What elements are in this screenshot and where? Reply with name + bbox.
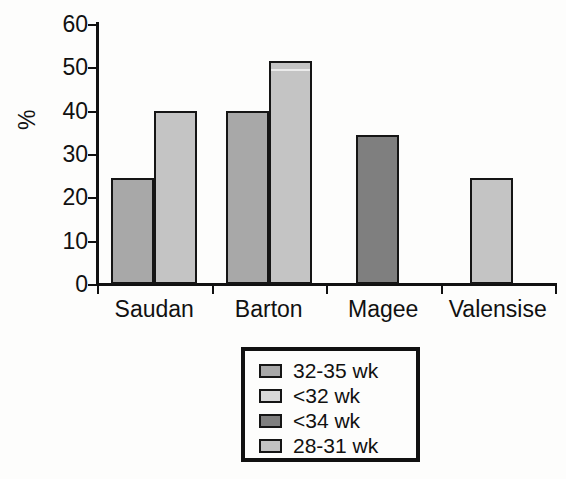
y-tick-mark xyxy=(88,154,97,156)
chart-legend: 32-35 wk<32 wk<34 wk28-31 wk xyxy=(241,347,420,462)
x-axis-label: Barton xyxy=(235,296,303,323)
y-axis-title: % xyxy=(14,110,41,130)
plot-area: 0102030405060 xyxy=(97,24,555,284)
x-axis-label: Magee xyxy=(348,296,418,323)
legend-label: 28-31 wk xyxy=(293,435,378,456)
y-tick-label: 50 xyxy=(62,56,88,79)
x-axis-label: Saudan xyxy=(115,296,194,323)
y-tick-label: 20 xyxy=(62,186,88,209)
legend-swatch xyxy=(259,364,282,378)
bar xyxy=(154,111,197,284)
legend-entry: <32 wk xyxy=(259,383,416,408)
y-tick-label: 0 xyxy=(75,273,88,296)
x-axis-label: Valensise xyxy=(449,296,547,323)
bar-chart-figure: % 0102030405060 SaudanBartonMageeValensi… xyxy=(0,0,566,479)
x-tick-mark xyxy=(212,283,214,294)
legend-entry-list: 32-35 wk<32 wk<34 wk28-31 wk xyxy=(259,358,416,458)
y-tick-label: 40 xyxy=(62,99,88,122)
y-tick-label: 60 xyxy=(62,13,88,36)
x-tick-mark xyxy=(441,283,443,294)
legend-swatch xyxy=(259,414,282,428)
bar xyxy=(269,61,312,284)
bar xyxy=(226,111,269,284)
legend-entry: <34 wk xyxy=(259,408,416,433)
x-tick-mark xyxy=(555,283,557,294)
scan-artifact xyxy=(271,69,310,71)
y-tick-label: 30 xyxy=(62,143,88,166)
y-tick-mark xyxy=(88,197,97,199)
legend-swatch xyxy=(259,389,282,403)
bar xyxy=(470,178,513,284)
legend-label: <34 wk xyxy=(293,410,360,431)
y-tick-mark xyxy=(88,241,97,243)
legend-entry: 28-31 wk xyxy=(259,433,416,458)
bar xyxy=(356,135,399,285)
legend-entry: 32-35 wk xyxy=(259,358,416,383)
y-tick-mark xyxy=(88,111,97,113)
y-tick-label: 10 xyxy=(62,229,88,252)
x-tick-mark xyxy=(97,283,99,294)
legend-swatch xyxy=(259,439,282,453)
bar xyxy=(111,178,154,284)
x-tick-mark xyxy=(326,283,328,294)
legend-label: <32 wk xyxy=(293,385,360,406)
y-tick-mark xyxy=(88,67,97,69)
y-tick-mark xyxy=(88,284,97,286)
legend-label: 32-35 wk xyxy=(293,360,378,381)
y-tick-mark xyxy=(88,24,97,26)
